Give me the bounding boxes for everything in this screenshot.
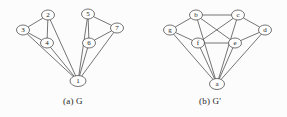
graph-node-1[interactable]: 1 [70, 76, 86, 87]
node-label: b [194, 11, 198, 19]
node-label: 1 [76, 77, 80, 85]
graph-node-c[interactable]: c [232, 10, 245, 20]
node-label: 5 [86, 10, 90, 18]
node-label: 7 [115, 24, 119, 32]
graph-node-b[interactable]: b [190, 10, 203, 20]
graph-canvas: 1234567abcdefg [0, 0, 287, 117]
graph-edge [197, 20, 215, 79]
graph-edge [201, 18, 231, 39]
caption-graph-g-prime: (b) G' [199, 96, 221, 106]
graph-node-2[interactable]: 2 [42, 10, 55, 20]
node-label: 2 [46, 11, 50, 19]
node-label: c [236, 11, 239, 19]
node-label: e [233, 39, 236, 47]
graph-edge [203, 18, 233, 39]
graph-edge [219, 20, 237, 79]
graph-node-4[interactable]: 4 [41, 38, 54, 48]
node-label: g [168, 26, 172, 34]
graph-node-a[interactable]: a [210, 79, 225, 90]
graph-node-7[interactable]: 7 [111, 23, 124, 33]
graph-edge [50, 47, 74, 76]
node-label: d [263, 26, 267, 34]
graph-edge [47, 20, 48, 38]
graph-node-e[interactable]: e [229, 38, 242, 48]
graph-edge [175, 18, 191, 27]
graph-node-d[interactable]: d [259, 25, 272, 35]
graph-node-6[interactable]: 6 [83, 38, 96, 48]
graph-edge [28, 18, 43, 27]
node-label: 3 [21, 26, 25, 34]
graph-edge [243, 18, 259, 27]
edges-layer [27, 15, 261, 79]
node-label: 4 [45, 39, 49, 47]
nodes-layer: 1234567abcdefg [17, 9, 272, 90]
graph-edge [88, 19, 89, 38]
graph-node-3[interactable]: 3 [17, 25, 30, 35]
graph-node-f[interactable]: f [192, 38, 205, 48]
graph-edge [94, 17, 112, 26]
graph-node-5[interactable]: 5 [82, 9, 95, 19]
graph-node-g[interactable]: g [164, 25, 177, 35]
graph-figure: 1234567abcdefg (a) G (b) G' [0, 0, 287, 117]
caption-graph-g: (a) G [63, 96, 83, 106]
node-label: 6 [87, 39, 91, 47]
